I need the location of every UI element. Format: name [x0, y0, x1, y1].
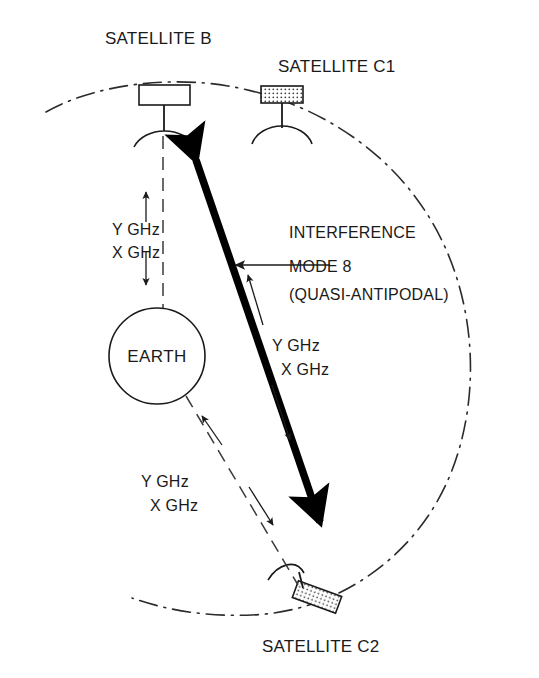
satellite-c2-label: SATELLITE C2	[262, 637, 379, 656]
satellite-interference-diagram: SATELLITE B SATELLITE C1 SATELLITE C2 EA…	[0, 0, 539, 678]
interference-callout-line1: INTERFERENCE	[289, 224, 416, 241]
beam-downlink-arrow	[272, 385, 290, 440]
beam-downlink-label: X GHz	[281, 361, 329, 378]
satellite-c2	[268, 564, 342, 613]
downlink-arrow-c2	[249, 487, 273, 525]
figure-canvas: SATELLITE B SATELLITE C1 SATELLITE C2 EA…	[0, 0, 539, 678]
link-earth-c2-dashline	[186, 396, 298, 585]
interference-callout-line2: MODE 8	[289, 258, 352, 275]
link-earth-c2-uplink-label: Y GHz	[141, 473, 189, 490]
satellite-b-dish	[134, 131, 195, 147]
earth-label: EARTH	[127, 347, 186, 366]
satellite-c1-dish	[252, 126, 312, 144]
satellite-b-label: SATELLITE B	[105, 29, 212, 48]
link-earth-satellite-b: Y GHz X GHz	[112, 136, 163, 308]
satellite-b	[134, 85, 195, 147]
earth: EARTH	[109, 308, 205, 404]
link-earth-b-uplink-label: Y GHz	[112, 221, 160, 238]
interference-callout: INTERFERENCE MODE 8 (QUASI-ANTIPODAL)	[236, 224, 449, 303]
satellite-c1	[252, 86, 312, 144]
satellite-b-body	[139, 85, 190, 105]
interference-callout-line3: (QUASI-ANTIPODAL)	[289, 286, 449, 303]
link-earth-b-downlink-label: X GHz	[112, 244, 160, 261]
link-earth-c2-downlink-label: X GHz	[150, 497, 198, 514]
satellite-c1-label: SATELLITE C1	[278, 57, 395, 76]
link-earth-satellite-c2: Y GHz X GHz	[141, 396, 298, 585]
beam-uplink-label: Y GHz	[272, 337, 320, 354]
satellite-c1-body	[261, 86, 303, 103]
